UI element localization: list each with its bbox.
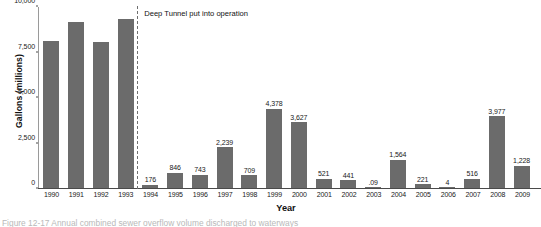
figure-caption: Figure 12-17 Annual combined sewer overf… — [2, 218, 539, 227]
deep-tunnel-annotation-label: Deep Tunnel put into operation — [144, 9, 248, 18]
bar-slot — [64, 7, 89, 188]
x-tick-label-1999: 1999 — [262, 191, 287, 198]
y-tick-mark — [36, 188, 39, 189]
x-tick-label-2008: 2008 — [485, 191, 510, 198]
bar-value-label: 3,627 — [290, 114, 307, 121]
bar-series: 1768467432,2397094,3783,627521441.091,56… — [39, 7, 534, 188]
bar-value-label: 846 — [169, 164, 180, 171]
x-tick-label-1997: 1997 — [213, 191, 238, 198]
bar-2005[interactable]: 221 — [415, 184, 431, 188]
bar-value-label: 3,977 — [488, 108, 505, 115]
x-axis-ticks: 1990199119921993199419951996199719981999… — [39, 191, 535, 198]
y-tick-mark — [36, 6, 39, 7]
bar-value-label: 743 — [194, 166, 205, 173]
bar-1991[interactable] — [68, 22, 84, 188]
x-axis-title: Year — [38, 203, 534, 213]
x-tick-label-2005: 2005 — [411, 191, 436, 198]
bar-value-label: 221 — [417, 176, 428, 183]
bar-slot: 743 — [188, 7, 213, 188]
y-tick-label: 10,000 — [14, 0, 35, 4]
x-tick-label-2003: 2003 — [361, 191, 386, 198]
bar-value-label: 176 — [145, 176, 156, 183]
bar-1990[interactable] — [43, 41, 59, 188]
bar-slot: 521 — [311, 7, 336, 188]
y-tick-mark — [36, 142, 39, 143]
bar-slot: 176 — [138, 7, 163, 188]
bar-1994[interactable]: 176 — [142, 185, 158, 188]
bar-2001[interactable]: 521 — [316, 179, 332, 188]
x-tick-label-1995: 1995 — [163, 191, 188, 198]
plot-area: 02,5005,0007,50010,000 1768467432,239709… — [38, 7, 534, 189]
bar-chart-figure: Gallons (millions) 02,5005,0007,50010,00… — [0, 0, 541, 227]
x-tick-label-1996: 1996 — [188, 191, 213, 198]
bar-slot: 1,228 — [509, 7, 534, 188]
bar-value-label: 2,239 — [216, 139, 233, 146]
bar-2000[interactable]: 3,627 — [291, 122, 307, 188]
bar-value-label: 521 — [318, 170, 329, 177]
y-tick-label: 2,500 — [18, 133, 35, 140]
y-tick-mark — [36, 97, 39, 98]
bar-slot — [113, 7, 138, 188]
x-axis-line — [38, 188, 541, 189]
x-tick-label-2002: 2002 — [337, 191, 362, 198]
bar-1998[interactable]: 709 — [241, 175, 257, 188]
bar-2002[interactable]: 441 — [340, 180, 356, 188]
bar-slot: .09 — [361, 7, 386, 188]
bar-value-label: 709 — [244, 167, 255, 174]
bar-2007[interactable]: 516 — [464, 179, 480, 188]
bar-value-label: 4,378 — [266, 100, 283, 107]
bar-1993[interactable] — [118, 19, 134, 188]
bar-1999[interactable]: 4,378 — [266, 109, 282, 188]
x-tick-label-2001: 2001 — [312, 191, 337, 198]
bar-slot: 3,627 — [287, 7, 312, 188]
bar-2004[interactable]: 1,564 — [390, 160, 406, 188]
x-tick-label-1992: 1992 — [89, 191, 114, 198]
x-tick-label-1991: 1991 — [64, 191, 89, 198]
bar-2009[interactable]: 1,228 — [514, 166, 530, 188]
bar-slot: 516 — [460, 7, 485, 188]
x-tick-label-1994: 1994 — [138, 191, 163, 198]
x-tick-label-1993: 1993 — [113, 191, 138, 198]
bar-2008[interactable]: 3,977 — [489, 116, 505, 188]
y-tick-label: 0 — [31, 179, 35, 186]
y-tick-label: 5,000 — [18, 88, 35, 95]
bar-slot: 3,977 — [485, 7, 510, 188]
bar-1992[interactable] — [93, 42, 109, 188]
bar-slot — [89, 7, 114, 188]
bar-value-label: 1,228 — [513, 157, 530, 164]
x-tick-label-1990: 1990 — [39, 191, 64, 198]
x-tick-label-2006: 2006 — [436, 191, 461, 198]
bar-1996[interactable]: 743 — [192, 175, 208, 188]
bar-2003[interactable]: .09 — [365, 187, 381, 188]
bar-slot: 441 — [336, 7, 361, 188]
bar-value-label: .09 — [368, 179, 377, 186]
bar-slot: 846 — [163, 7, 188, 188]
bar-value-label: 1,564 — [389, 151, 406, 158]
bar-2006[interactable]: 4 — [439, 187, 455, 188]
bar-slot: 221 — [410, 7, 435, 188]
x-tick-label-2004: 2004 — [386, 191, 411, 198]
bar-slot: 2,239 — [212, 7, 237, 188]
bar-value-label: 4 — [445, 179, 449, 186]
x-tick-label-1998: 1998 — [237, 191, 262, 198]
x-tick-label-2009: 2009 — [510, 191, 535, 198]
bar-slot — [39, 7, 64, 188]
bar-slot: 4 — [435, 7, 460, 188]
bar-1997[interactable]: 2,239 — [217, 147, 233, 188]
y-tick-label: 7,500 — [18, 42, 35, 49]
bar-slot: 709 — [237, 7, 262, 188]
bar-value-label: 441 — [343, 172, 354, 179]
x-tick-label-2000: 2000 — [287, 191, 312, 198]
y-tick-mark — [36, 51, 39, 52]
bar-value-label: 516 — [466, 170, 477, 177]
x-tick-label-2007: 2007 — [461, 191, 486, 198]
bar-1995[interactable]: 846 — [167, 173, 183, 188]
deep-tunnel-divider-line: Deep Tunnel put into operation — [137, 6, 138, 189]
bar-slot: 1,564 — [386, 7, 411, 188]
bar-slot: 4,378 — [262, 7, 287, 188]
